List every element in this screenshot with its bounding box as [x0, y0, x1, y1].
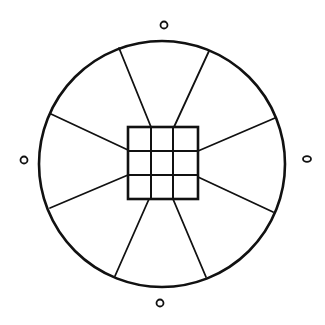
marker-right-circle-icon [303, 156, 311, 162]
marker-bottom-circle-icon [157, 300, 164, 307]
radial-line-top-right [174, 51, 209, 127]
radial-line-top-left [119, 48, 151, 127]
center-square [128, 127, 198, 199]
radial-line-right-lower [198, 177, 273, 212]
radial-line-bottom-right [173, 199, 206, 277]
radial-line-left-lower [50, 175, 128, 208]
radial-line-right-upper [198, 118, 275, 151]
marker-top-circle-icon [161, 22, 168, 29]
marker-left-circle-icon [21, 157, 28, 164]
compass-grid-diagram [0, 0, 325, 325]
radial-line-bottom-left [115, 199, 149, 276]
center-grid-group [128, 127, 198, 199]
radial-line-left-upper [51, 114, 128, 150]
